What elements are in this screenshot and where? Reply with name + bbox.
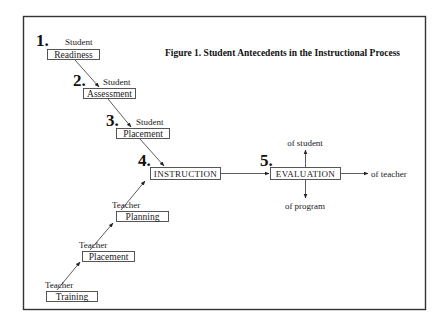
teacher-planning-label: Teacher: [112, 200, 140, 210]
step-label-3: Student: [136, 117, 164, 127]
step-number-3: 3.: [106, 111, 119, 130]
evaluation-of-student: of student: [287, 138, 323, 148]
teacher-training: Teacher Training: [45, 280, 98, 302]
step-number-2: 2.: [73, 71, 86, 90]
step-number-1: 1.: [36, 31, 49, 50]
step-number-4: 4.: [138, 151, 151, 170]
assessment-box-label: Assessment: [87, 89, 132, 99]
evaluation-of-program: of program: [285, 201, 325, 211]
diagram-canvas: Figure 1. Student Antecedents in the Ins…: [0, 0, 447, 335]
teacher-placement-box-label: Placement: [89, 252, 129, 262]
training-box-label: Training: [56, 292, 89, 302]
step-student-placement: 3. Student Placement: [106, 111, 170, 139]
figure-title: Figure 1. Student Antecedents in the Ins…: [165, 48, 400, 58]
step-student-readiness: 1. Student Readiness: [36, 31, 100, 60]
figure-frame: [24, 17, 426, 310]
evaluation-box-label: EVALUATION: [276, 169, 336, 179]
student-placement-box-label: Placement: [123, 129, 163, 139]
step-instruction: 4. INSTRUCTION: [138, 151, 221, 180]
step-label-2: Student: [103, 77, 131, 87]
step-student-assessment: 2. Student Assessment: [73, 71, 136, 99]
evaluation-of-teacher: of teacher: [371, 169, 407, 179]
step-evaluation: 5. EVALUATION: [260, 151, 341, 180]
teacher-placement: Teacher Placement: [79, 240, 135, 262]
instruction-box-label: INSTRUCTION: [154, 169, 217, 179]
teacher-placement-label: Teacher: [79, 240, 107, 250]
step-label-1: Student: [65, 37, 93, 47]
teacher-training-label: Teacher: [45, 280, 73, 290]
teacher-planning: Teacher Planning: [112, 200, 169, 222]
planning-box-label: Planning: [126, 212, 160, 222]
readiness-box-label: Readiness: [54, 50, 93, 60]
